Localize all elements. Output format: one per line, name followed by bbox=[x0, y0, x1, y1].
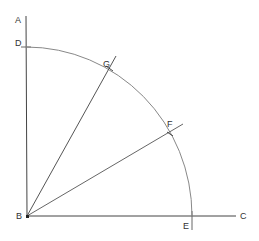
label-f: F bbox=[167, 119, 173, 129]
point-b bbox=[26, 215, 29, 218]
line-bf bbox=[27, 124, 183, 216]
geometry-diagram: A D G F B E C bbox=[0, 0, 259, 241]
label-a: A bbox=[15, 15, 21, 25]
line-bg bbox=[27, 56, 116, 216]
label-d: D bbox=[15, 38, 22, 48]
arc-de bbox=[26, 47, 192, 216]
ray-ba bbox=[26, 16, 27, 216]
label-g: G bbox=[103, 59, 110, 69]
label-c: C bbox=[240, 211, 247, 221]
label-e: E bbox=[183, 221, 189, 231]
label-b: B bbox=[16, 211, 22, 221]
